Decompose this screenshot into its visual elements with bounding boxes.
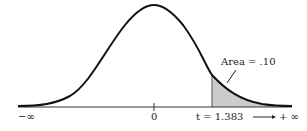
pos-inf-arrowhead bbox=[272, 115, 276, 119]
neg-inf-label: −∞ bbox=[18, 111, 35, 122]
zero-label: 0 bbox=[151, 111, 157, 122]
pos-inf-label: + ∞ bbox=[279, 111, 299, 122]
area-label: Area = .10 bbox=[221, 56, 276, 67]
t-value-label: t = 1.383 bbox=[196, 111, 243, 122]
area-pointer-arrow bbox=[227, 70, 236, 83]
